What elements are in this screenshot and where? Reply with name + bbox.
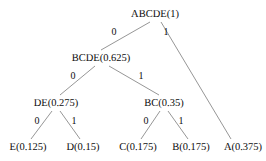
tree-node-bc: BC(0.35) (144, 98, 183, 109)
huffman-tree-diagram: ABCDE(1)BCDE(0.625)DE(0.275)BC(0.35)E(0.… (0, 0, 266, 161)
edge-bit-label-root-a: 1 (164, 27, 169, 37)
tree-node-root: ABCDE(1) (131, 9, 179, 20)
tree-edge-root-a (161, 22, 231, 139)
tree-edge-bcde-bc (109, 66, 159, 95)
edge-bit-label-bcde-de: 0 (71, 71, 76, 81)
tree-node-e: E(0.125) (9, 142, 46, 153)
tree-edge-bcde-de (60, 66, 95, 95)
edge-bit-label-de-e: 0 (35, 116, 40, 126)
edge-bit-label-root-bcde: 0 (112, 27, 117, 37)
tree-edge-de-d (60, 111, 80, 139)
edge-bit-label-de-d: 1 (72, 116, 77, 126)
tree-node-d: D(0.15) (67, 142, 100, 153)
edge-bit-label-bc-b: 1 (179, 116, 184, 126)
tree-node-b: B(0.175) (172, 142, 210, 153)
tree-node-a: A(0.375) (224, 142, 262, 153)
edge-bit-label-bcde-bc: 1 (139, 71, 144, 81)
tree-node-c: C(0.175) (119, 142, 157, 153)
tree-edge-layer (0, 0, 266, 161)
tree-edge-root-bcde (101, 22, 150, 50)
tree-node-bcde: BCDE(0.625) (72, 53, 131, 64)
tree-node-de: DE(0.275) (34, 98, 79, 109)
edge-bit-label-bc-c: 0 (144, 116, 149, 126)
